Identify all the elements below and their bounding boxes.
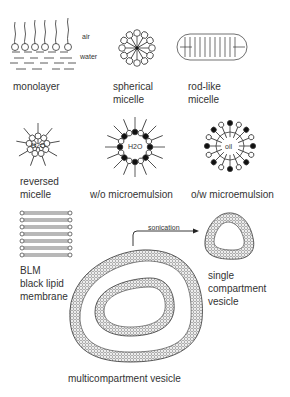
- spherical-micelle-label-line1: spherical: [113, 81, 153, 93]
- single-vesicle-label-line1: single: [208, 270, 234, 282]
- spherical-micelle-label-line2: micelle: [113, 94, 144, 106]
- blm-label-line3: membrane: [20, 291, 68, 303]
- rod-like-micelle-label-line1: rod-like: [188, 81, 221, 93]
- multicompartment-vesicle-illustration: [70, 250, 203, 362]
- reversed-micelle-core-label: H2O: [31, 142, 45, 150]
- monolayer-label: monolayer: [13, 81, 60, 93]
- blm-illustration: [20, 211, 72, 257]
- wo-microemulsion-core-label: H2O: [128, 143, 142, 151]
- air-label: air: [82, 33, 90, 41]
- blm-label-line1: BLM: [20, 265, 41, 277]
- reversed-micelle-label-line1: reversed: [20, 176, 59, 188]
- spherical-micelle-illustration: [119, 30, 156, 67]
- rod-like-micelle-illustration: [177, 34, 247, 60]
- wo-microemulsion-label: w/o microemulsion: [90, 189, 173, 201]
- single-vesicle-label-line2: compartment: [208, 283, 266, 295]
- ow-microemulsion-core-label: oil: [225, 143, 232, 151]
- monolayer-illustration: [10, 18, 76, 69]
- water-label: water: [80, 53, 97, 61]
- blm-label-line2: black lipid: [20, 278, 64, 290]
- rod-like-micelle-label-line2: micelle: [188, 94, 219, 106]
- multicompartment-vesicle-label: multicompartment vesicle: [68, 373, 181, 385]
- ow-microemulsion-label: o/w microemulsion: [191, 189, 274, 201]
- reversed-micelle-label-line2: micelle: [20, 189, 51, 201]
- single-vesicle-illustration: [205, 213, 254, 259]
- sonication-label: sonication: [148, 224, 180, 232]
- single-vesicle-label-line3: vesicle: [208, 296, 239, 308]
